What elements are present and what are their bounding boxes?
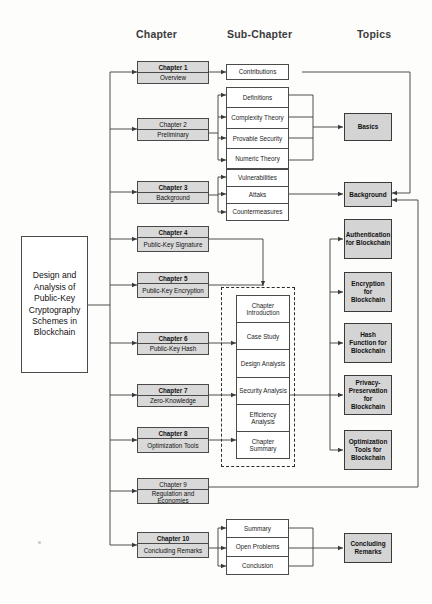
subchapter-group-preliminary: Definitions Complexity Theory Provable S… <box>226 87 289 169</box>
subchapter-vulnerabilities[interactable]: Vulnerabilities <box>227 170 288 187</box>
subchapter-attacks[interactable]: Attaks <box>227 187 288 204</box>
chapter-3-name: Background <box>138 193 208 203</box>
chapter-2-name: Preliminary <box>138 130 208 140</box>
chapter-4-number: Chapter 4 <box>138 227 208 238</box>
chapter-10-name: Concluding Remarks <box>138 544 208 557</box>
chapter-1-number: Chapter 1 <box>138 62 208 73</box>
chapter-9-number: Chapter 9 <box>138 479 208 490</box>
subchapter-contributions[interactable]: Contributions <box>226 64 289 80</box>
subchapter-case-study[interactable]: Case Study <box>237 323 289 350</box>
topic-background[interactable]: Background <box>344 182 392 207</box>
topic-basics[interactable]: Basics <box>344 113 392 141</box>
subchapter-provable-security[interactable]: Provable Security <box>227 129 288 149</box>
thesis-title-box: Design and Analysis of Public-Key Crypto… <box>21 236 88 373</box>
chapter-8-name: Optimization Tools <box>138 439 208 452</box>
subchapter-group-chapter-structure: Chapter Introduction Case Study Design A… <box>236 295 290 459</box>
chapter-box-3[interactable]: Chapter 3 Background <box>137 181 209 204</box>
subchapter-countermeasures[interactable]: Countermeasures <box>227 204 288 220</box>
subchapter-definitions[interactable]: Definitions <box>227 88 288 108</box>
subchapter-numeric-theory[interactable]: Numeric Theory <box>227 149 288 168</box>
subchapter-chapter-summary[interactable]: Chapter Summary <box>237 432 289 458</box>
subchapter-efficiency-analysis[interactable]: Efficiency Analysis <box>237 405 289 432</box>
subchapter-complexity-theory[interactable]: Complexity Theory <box>227 108 288 128</box>
chapter-7-number: Chapter 7 <box>138 385 208 396</box>
topic-optimization-tools-for-blockchain[interactable]: Optimization Tools for Blockchain <box>344 430 392 470</box>
chapter-box-10[interactable]: Chapter 10 Concluding Remarks <box>137 532 209 558</box>
topic-privacy-preservation-for-blockchain[interactable]: Privacy-Preservation for Blockchain <box>344 375 392 415</box>
column-header-chapter: Chapter <box>136 28 177 40</box>
chapter-box-1[interactable]: Chapter 1 Overview <box>137 61 209 84</box>
column-header-subchapter: Sub-Chapter <box>227 28 292 40</box>
chapter-box-7[interactable]: Chapter 7 Zero-Knowledge <box>137 384 209 407</box>
subchapter-group-background: Vulnerabilities Attaks Countermeasures <box>226 169 289 221</box>
chapter-box-5[interactable]: Chapter 5 Public-Key Encryption <box>137 272 209 298</box>
chapter-box-4[interactable]: Chapter 4 Public-Key Signature <box>137 226 209 252</box>
topic-hash-function-for-blockchain[interactable]: Hash Function for Blockchain <box>344 323 392 363</box>
subchapter-summary[interactable]: Summary <box>227 520 288 538</box>
column-header-topics: Topics <box>357 28 391 40</box>
subchapter-security-analysis[interactable]: Security Analysis <box>237 378 289 405</box>
chapter-1-name: Overview <box>138 73 208 83</box>
chapter-2-number: Chapter 2 <box>138 119 208 130</box>
chapter-7-name: Zero-Knowledge <box>138 396 208 406</box>
chapter-6-number: Chapter 6 <box>138 333 208 344</box>
chapter-8-number: Chapter 8 <box>138 428 208 439</box>
chapter-3-number: Chapter 3 <box>138 182 208 193</box>
topic-concluding-remarks[interactable]: Concluding Remarks <box>344 533 392 563</box>
topic-authentication-for-blockchain[interactable]: Authentication for Blockchain <box>344 219 392 259</box>
subchapter-design-analysis[interactable]: Design Analysis <box>237 350 289 377</box>
subchapter-open-problems[interactable]: Open Problems <box>227 538 288 556</box>
chapter-10-number: Chapter 10 <box>138 533 208 544</box>
chapter-box-9[interactable]: Chapter 9 Regulation and Economies <box>137 478 209 504</box>
topic-encryption-for-blockchain[interactable]: Encryption for Blockchain <box>344 272 392 312</box>
chapter-box-2[interactable]: Chapter 2 Preliminary <box>137 118 209 141</box>
chapter-box-8[interactable]: Chapter 8 Optimization Tools <box>137 427 209 453</box>
subchapter-chapter-introduction[interactable]: Chapter Introduction <box>237 296 289 323</box>
chapter-box-6[interactable]: Chapter 6 Public-Key Hash <box>137 332 209 355</box>
chapter-9-name: Regulation and Economies <box>138 490 208 505</box>
chapter-5-number: Chapter 5 <box>138 273 208 284</box>
chapter-5-name: Public-Key Encryption <box>138 284 208 297</box>
chapter-4-name: Public-Key Signature <box>138 238 208 251</box>
chapter-6-name: Public-Key Hash <box>138 344 208 354</box>
subchapter-group-concluding: Summary Open Problems Conclusion <box>226 519 289 575</box>
page-artifact-dot <box>38 541 41 544</box>
subchapter-conclusion[interactable]: Conclusion <box>227 557 288 574</box>
